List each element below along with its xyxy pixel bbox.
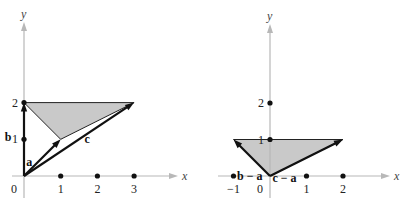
x-tick-label: 1 [304,182,310,196]
x-tick-dot [304,173,309,178]
x-axis-label: x [393,169,400,183]
y-axis-label: y [20,7,27,21]
y-tick-label: 2 [12,96,18,110]
y-tick-dot [267,100,272,105]
x-tick-label: 3 [131,182,137,196]
vector-b-minus-a-label: b − a [237,169,263,183]
x-tick-label: 0 [257,182,263,196]
y-tick-label: 2 [258,96,264,110]
vector-a-label: a [26,155,32,169]
x-tick-dot [340,173,345,178]
shaded-triangle [24,103,134,140]
x-tick-dot [58,173,63,178]
x-tick-dot [95,173,100,178]
panel-right: xy−101212b − ac − a [218,9,400,198]
x-tick-label: 1 [58,182,64,196]
x-tick-label: −1 [227,182,240,196]
x-tick-dot [231,173,236,178]
y-axis-label: y [266,9,273,23]
y-tick-label: 1 [12,132,18,146]
y-axis-arrow-icon [21,22,27,31]
x-tick-label: 2 [340,182,346,196]
x-axis-arrow-icon [381,173,390,179]
vector-c-minus-a-label: c − a [272,171,296,185]
vector-b-label: b [5,130,12,144]
vector-c-label: c [84,132,90,146]
vector-diagram: xy012312abc xy−101212b − ac − a [0,0,409,212]
vector-c-minus-a-arrow-icon [334,140,343,147]
x-tick-label: 0 [11,182,17,196]
panel-left: xy012312abc [5,7,188,198]
y-tick-label: 1 [258,133,264,147]
x-axis-label: x [181,169,188,183]
x-tick-label: 2 [94,182,100,196]
y-axis-arrow-icon [267,24,273,33]
x-tick-dot [132,173,137,178]
y-tick-dot [267,137,272,142]
x-axis-arrow-icon [169,173,178,179]
